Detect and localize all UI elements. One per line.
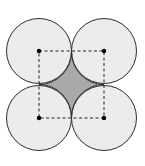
center-dot-top-left [37, 49, 41, 53]
center-dot-bottom-right [102, 116, 106, 120]
center-dot-top-right [102, 49, 106, 53]
circle-packing-diagram [0, 0, 145, 166]
center-dot-bottom-left [37, 116, 41, 120]
